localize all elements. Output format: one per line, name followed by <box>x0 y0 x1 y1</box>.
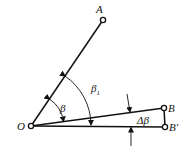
label-B: B <box>168 102 175 114</box>
arrow-delta-beta-top <box>127 94 130 112</box>
label-A: A <box>95 3 103 15</box>
label-beta1: β1 <box>90 82 100 97</box>
angle-diagram: A O B B′ β β1 Δβ <box>0 0 189 158</box>
label-Bprime: B′ <box>169 121 179 133</box>
arc-beta1 <box>65 76 91 125</box>
point-A <box>100 17 105 22</box>
point-B <box>161 105 166 110</box>
label-O: O <box>17 120 25 132</box>
line-OBprime <box>31 126 165 127</box>
label-delta-beta: Δβ <box>136 114 149 126</box>
point-Bprime <box>162 124 167 129</box>
line-OA <box>31 20 103 126</box>
label-beta: β <box>59 102 66 114</box>
point-O <box>28 123 33 128</box>
